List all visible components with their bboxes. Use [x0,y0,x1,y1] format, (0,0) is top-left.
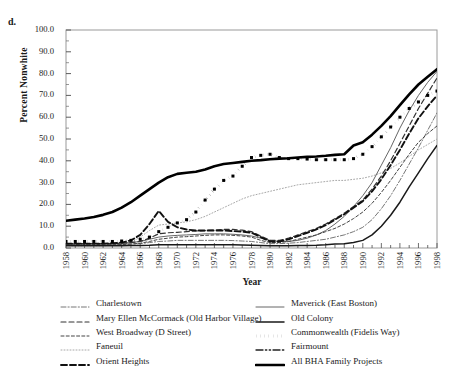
series-marker [380,135,383,138]
series-marker [111,240,114,243]
legend-swatch [60,327,90,337]
series-marker [408,107,411,110]
series-marker [231,175,234,178]
series-marker [204,199,207,202]
series-line [66,113,437,245]
data-series [65,69,439,246]
series-line [66,139,437,246]
series-marker [371,145,374,148]
series-marker [259,154,262,157]
legend-swatch [60,341,90,351]
legend-column-right: Maverick (East Boston)Old ColonyCommonwe… [255,296,400,368]
legend-label: Charlestown [96,298,142,308]
legend-column-left: CharlestownMary Ellen McCormack (Old Har… [60,296,262,368]
series-marker [213,188,216,191]
series-marker [102,240,105,243]
legend-swatch [255,356,285,366]
legend-item[interactable]: Commonwealth (Fidelis Way) [255,325,400,339]
series-marker [389,126,392,129]
legend-label: Maverick (East Boston) [291,298,377,308]
legend-item[interactable]: Orient Heights [60,354,262,368]
legend-item[interactable]: All BHA Family Projects [255,354,400,368]
legend-label: West Broadway (D Street) [96,327,191,337]
series-marker [315,158,318,161]
series-marker [417,100,420,103]
series-marker [65,240,68,243]
legend-label: Orient Heights [96,356,149,366]
series-marker [241,165,244,168]
series-marker [139,238,142,241]
legend-swatch [255,298,285,308]
series-marker [83,240,86,243]
series-marker [74,240,77,243]
series-marker [185,218,188,221]
series-marker [333,158,336,161]
legend-label: Fairmount [291,341,329,351]
legend-label: Old Colony [291,313,333,323]
series-marker [426,94,429,97]
legend-item[interactable]: West Broadway (D Street) [60,325,262,339]
legend: CharlestownMary Ellen McCormack (Old Har… [30,296,459,368]
legend-item[interactable]: Maverick (East Boston) [255,296,400,310]
chart-figure: d. Percent Nonwhite Year 0.010.020.030.0… [0,0,459,376]
legend-swatch [255,327,285,337]
series-marker [398,116,401,119]
legend-label: All BHA Family Projects [291,356,382,366]
series-line [66,69,437,221]
series-line [66,95,437,243]
legend-label: Mary Ellen McCormack (Old Harbor Village… [96,313,262,323]
legend-item[interactable]: Fairmount [255,339,400,353]
legend-item[interactable]: Charlestown [60,296,262,310]
series-marker [120,240,123,243]
series-marker [269,153,272,156]
legend-swatch [60,313,90,323]
legend-swatch [60,298,90,308]
series-marker [167,226,170,229]
plot-frame [66,30,437,248]
legend-item[interactable]: Mary Ellen McCormack (Old Harbor Village… [60,310,262,324]
legend-swatch [60,356,90,366]
series-marker [194,211,197,214]
legend-label: Faneuil [96,341,123,351]
series-marker [92,240,95,243]
series-marker [343,158,346,161]
series-marker [361,153,364,156]
series-marker [129,239,132,242]
series-marker [148,236,151,239]
legend-item[interactable]: Faneuil [60,339,262,353]
legend-swatch [255,313,285,323]
series-line [66,91,437,241]
legend-item[interactable]: Old Colony [255,310,400,324]
series-marker [176,221,179,224]
series-marker [157,230,160,233]
tick-marks [66,30,437,248]
series-marker [222,179,225,182]
legend-label: Commonwealth (Fidelis Way) [291,327,400,337]
series-marker [324,158,327,161]
series-marker [250,156,253,159]
legend-swatch [255,341,285,351]
series-marker [352,157,355,160]
series-marker [436,90,439,93]
